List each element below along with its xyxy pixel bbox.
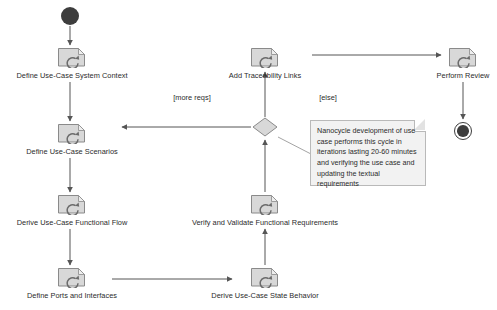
diamond-icon bbox=[252, 117, 278, 137]
final-node-circle bbox=[454, 122, 472, 140]
activity-label: Define Use-Case Scenarios bbox=[26, 147, 118, 156]
note-anchor-line bbox=[278, 137, 311, 154]
activity-icon bbox=[250, 193, 280, 215]
initial-node-circle bbox=[61, 7, 79, 25]
guard-else: [else] bbox=[319, 93, 337, 102]
activity-label: Define Ports and Interfaces bbox=[27, 291, 117, 300]
activity-label: Verify and Validate Functional Requireme… bbox=[192, 218, 338, 227]
activity-label: Perform Review bbox=[437, 71, 490, 80]
activity-icon bbox=[57, 46, 87, 68]
activity-icon bbox=[57, 122, 87, 144]
activity-icon bbox=[448, 46, 478, 68]
guard-more-reqs: [more reqs] bbox=[173, 93, 210, 102]
activity-icon bbox=[57, 193, 87, 215]
activity-label: Derive Use-Case Functional Flow bbox=[17, 218, 128, 227]
activity-label: Add Traceability Links bbox=[229, 71, 301, 80]
activity-label: Define Use-Case System Context bbox=[16, 71, 127, 80]
activity-diagram-canvas: Define Use-Case System Context Define Us… bbox=[0, 0, 497, 310]
activity-icon bbox=[57, 266, 87, 288]
activity-label: Derive Use-Case State Behavior bbox=[211, 291, 318, 300]
activity-icon bbox=[250, 46, 280, 68]
note-text: Nanocycle development of use case perfor… bbox=[317, 126, 419, 190]
nanocycle-note: Nanocycle development of use case perfor… bbox=[310, 120, 426, 186]
activity-icon bbox=[250, 266, 280, 288]
